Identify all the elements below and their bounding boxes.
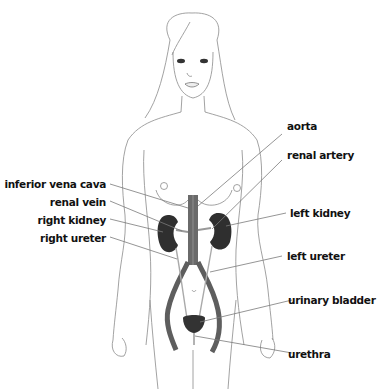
body-illustration: [0, 0, 384, 389]
label-inferior-vena-cava: inferior vena cava: [0, 178, 106, 190]
label-left-ureter: left ureter: [287, 250, 345, 262]
label-right-kidney: right kidney: [0, 214, 106, 226]
label-urethra: urethra: [288, 348, 330, 360]
label-renal-vein: renal vein: [0, 196, 106, 208]
face-features: [177, 59, 208, 87]
label-renal-artery: renal artery: [287, 149, 354, 161]
label-aorta: aorta: [287, 120, 317, 132]
bladder: [183, 315, 205, 345]
label-left-kidney: left kidney: [290, 207, 350, 219]
urinary-system-diagram: inferior vena cava renal vein right kidn…: [0, 0, 384, 389]
label-right-ureter: right ureter: [0, 232, 106, 244]
label-urinary-bladder: urinary bladder: [288, 294, 376, 306]
